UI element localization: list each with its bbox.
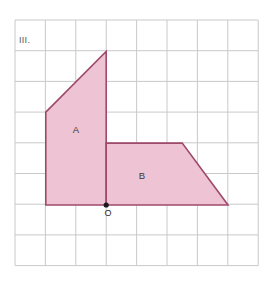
figure-canvas: III. A B O [0,0,271,282]
origin-point-dot [104,202,109,207]
panel-roman-label: III. [19,35,30,45]
shape-a-label: A [73,124,80,135]
shape-b-label: B [139,170,145,181]
geometry-figure-panel: III. A B O [0,0,271,282]
origin-point-label: O [104,208,111,218]
canvas-background [0,0,271,282]
